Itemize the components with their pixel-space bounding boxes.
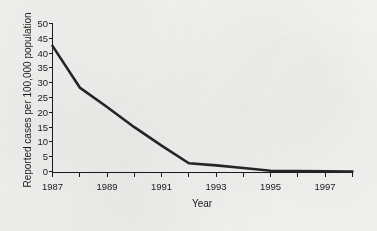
- x-tick-label: 1993: [205, 181, 226, 192]
- y-tick-label: 50: [37, 18, 48, 29]
- y-tick-label: 45: [37, 33, 48, 44]
- x-tick-label: 1989: [96, 181, 117, 192]
- y-tick-label: 40: [37, 48, 48, 59]
- y-tick-label: 10: [37, 136, 48, 147]
- data-series-line: [53, 46, 353, 172]
- line-chart-canvas: Reported cases per 100,000 population 50…: [0, 0, 377, 231]
- y-axis-title: Reported cases per 100,000 population: [22, 12, 33, 187]
- chart-figure: Reported cases per 100,000 population 50…: [0, 0, 377, 231]
- x-tick-label: 1997: [314, 181, 335, 192]
- y-tick-label: 0: [43, 166, 48, 177]
- x-axis-tick-labels: 1987 1989 1991 1993 1995 1997: [42, 181, 336, 192]
- x-axis-title: Year: [192, 198, 213, 209]
- y-tick-label: 15: [37, 122, 48, 133]
- y-tick-label: 35: [37, 62, 48, 73]
- x-tick-label: 1995: [260, 181, 281, 192]
- y-tick-label: 30: [37, 77, 48, 88]
- x-tick-label: 1987: [42, 181, 63, 192]
- x-tick-label: 1991: [151, 181, 172, 192]
- x-axis-line: [53, 173, 353, 178]
- y-axis-tick-labels: 50 45 40 35 30 25 20 15 10 5 0: [37, 18, 48, 177]
- y-tick-label: 5: [43, 151, 48, 162]
- y-tick-label: 25: [37, 92, 48, 103]
- y-tick-label: 20: [37, 107, 48, 118]
